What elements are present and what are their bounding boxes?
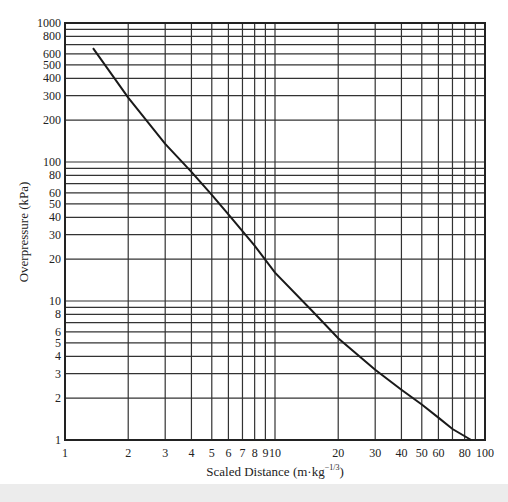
y-tick-label: 10: [49, 294, 61, 308]
y-tick-label: 400: [43, 71, 61, 85]
x-tick-label: 8: [252, 446, 258, 460]
x-tick-label: 10: [269, 446, 281, 460]
x-tick-label: 100: [476, 446, 494, 460]
x-tick-labels: 12345678910203040506080100: [62, 446, 494, 460]
y-tick-label: 20: [49, 252, 61, 266]
data-curve: [93, 48, 471, 440]
x-tick-label: 40: [395, 446, 407, 460]
x-tick-label: 60: [432, 446, 444, 460]
y-tick-label: 3: [55, 367, 61, 381]
x-tick-label: 6: [225, 446, 231, 460]
y-axis-label: Overpressure (kPa): [16, 182, 31, 283]
bottom-band: [0, 484, 508, 502]
x-tick-label: 3: [162, 446, 168, 460]
y-tick-label: 80: [49, 168, 61, 182]
x-tick-label: 20: [332, 446, 344, 460]
y-tick-label: 60: [49, 186, 61, 200]
x-tick-label: 7: [239, 446, 245, 460]
y-tick-label: 1000: [37, 16, 61, 30]
y-tick-label: 40: [49, 210, 61, 224]
x-tick-label: 30: [369, 446, 381, 460]
y-tick-label: 200: [43, 113, 61, 127]
y-tick-label: 800: [43, 29, 61, 43]
y-tick-labels: 1234568102030405060801002003004005006008…: [37, 16, 61, 447]
y-tick-label: 4: [55, 349, 61, 363]
y-tick-label: 100: [43, 155, 61, 169]
y-tick-label: 6: [55, 325, 61, 339]
x-tick-label: 9: [262, 446, 268, 460]
y-tick-label: 8: [55, 307, 61, 321]
x-tick-label: 80: [459, 446, 471, 460]
overpressure-chart: 12345678910203040506080100 1234568102030…: [0, 0, 508, 484]
x-tick-label: 5: [209, 446, 215, 460]
x-tick-label: 1: [62, 446, 68, 460]
x-tick-label: 50: [416, 446, 428, 460]
y-tick-label: 300: [43, 89, 61, 103]
y-tick-label: 600: [43, 47, 61, 61]
y-tick-label: 2: [55, 391, 61, 405]
y-tick-label: 1: [55, 433, 61, 447]
y-tick-label: 30: [49, 228, 61, 242]
x-tick-label: 2: [125, 446, 131, 460]
x-axis-label: Scaled Distance (m·kg−1/3): [206, 463, 343, 479]
grid-lines: [65, 23, 485, 440]
x-tick-label: 4: [188, 446, 194, 460]
